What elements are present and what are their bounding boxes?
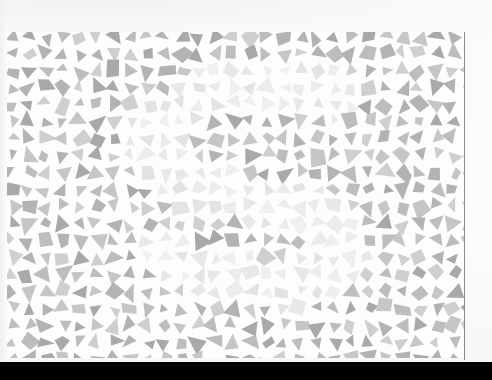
gray-shard	[463, 81, 477, 96]
gray-shard	[465, 116, 478, 130]
gray-shard	[463, 46, 479, 60]
gray-shard	[463, 163, 480, 179]
photo-scene	[0, 0, 492, 380]
paper-shadow	[0, 0, 6, 362]
gray-shard	[464, 246, 476, 261]
gray-shard	[465, 268, 477, 280]
bottom-black-band	[0, 362, 492, 380]
gray-shard	[463, 155, 478, 164]
gray-shard	[106, 60, 119, 78]
gray-shard	[225, 45, 235, 58]
gray-shard	[72, 304, 86, 314]
gray-shard	[464, 183, 478, 194]
gray-shard	[466, 31, 480, 43]
gray-shard	[468, 286, 480, 297]
gray-shard	[464, 129, 477, 144]
gray-shard	[465, 101, 477, 112]
gray-shard	[295, 321, 310, 331]
gray-shard	[364, 235, 375, 246]
shard-mosaic	[0, 0, 492, 380]
gray-shard	[465, 334, 478, 348]
card-edge-line	[464, 32, 465, 360]
gray-shard	[310, 148, 326, 168]
gray-shard	[158, 65, 177, 76]
